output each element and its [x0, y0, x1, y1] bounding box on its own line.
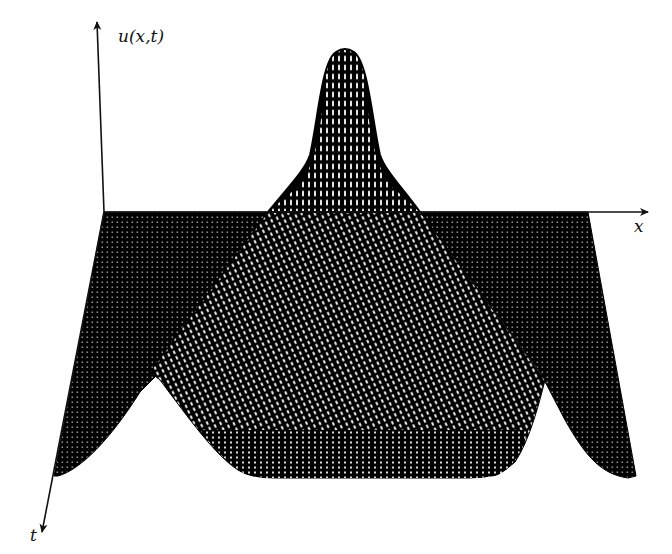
front-surface-bottom — [200, 430, 528, 478]
x-axis-label: x — [634, 218, 644, 235]
u-axis-label: u(x,t) — [118, 28, 164, 45]
t-axis-label: t — [30, 527, 37, 544]
surface-plot — [0, 0, 672, 554]
u-axis — [97, 22, 104, 212]
